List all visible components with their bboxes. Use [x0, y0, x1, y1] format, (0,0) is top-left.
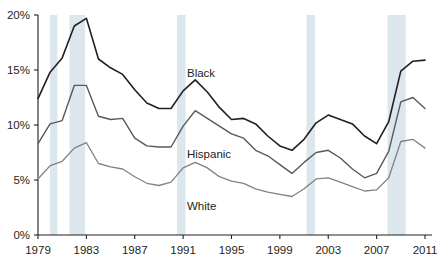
unemployment-rate-line-chart: 0%5%10%15%20% 19791983198719911995199920… [0, 0, 440, 280]
y-axis-tick-label: 5% [13, 174, 30, 186]
x-axis-tick-label: 1995 [219, 244, 245, 256]
y-axis-ticks: 0%5%10%15%20% [7, 9, 38, 241]
x-axis-tick-label: 2003 [315, 244, 341, 256]
x-axis-group: 197919831987199119951999200320072011 [25, 235, 437, 256]
y-axis-tick-label: 20% [7, 9, 30, 21]
x-axis-tick-label: 1987 [122, 244, 148, 256]
y-axis-tick-label: 10% [7, 119, 30, 131]
x-axis-tick-label: 2011 [413, 244, 438, 256]
x-axis-ticks: 197919831987199119951999200320072011 [25, 235, 437, 256]
chart-canvas: 0%5%10%15%20% 19791983198719911995199920… [0, 0, 440, 280]
x-axis-tick-label: 1979 [25, 244, 51, 256]
series-line-white [38, 139, 425, 196]
y-axis-group: 0%5%10%15%20% [7, 9, 38, 241]
y-axis-tick-label: 15% [7, 64, 30, 76]
recession-band [388, 15, 406, 235]
x-axis-tick-label: 1983 [74, 244, 100, 256]
series-label-hispanic: Hispanic [187, 148, 231, 160]
x-axis-tick-label: 1999 [267, 244, 293, 256]
series-label-black: Black [187, 67, 215, 79]
x-axis-tick-label: 2007 [364, 244, 390, 256]
series-lines-group [38, 18, 425, 196]
series-label-white: White [187, 200, 216, 212]
series-inline-labels: Black Hispanic White [187, 67, 231, 212]
y-axis-tick-label: 0% [13, 229, 30, 241]
x-axis-tick-label: 1991 [170, 244, 196, 256]
series-line-black [38, 18, 425, 150]
recession-bands-group [50, 15, 406, 235]
recession-band [50, 15, 57, 235]
recession-band [69, 15, 85, 235]
series-line-hispanic [38, 85, 425, 177]
